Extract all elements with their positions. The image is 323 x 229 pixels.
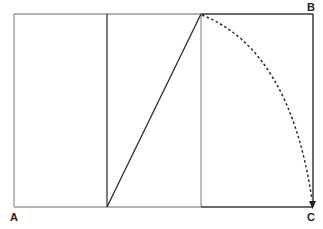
golden-rectangle-diagram: A B C (0, 0, 323, 229)
diagonal-line (107, 14, 201, 207)
arrowhead-icon (309, 201, 316, 209)
point-label-c: C (307, 212, 315, 223)
diagram-canvas (0, 0, 323, 229)
dashed-arc (202, 15, 312, 200)
point-label-b: B (307, 2, 315, 13)
point-label-a: A (10, 212, 18, 223)
